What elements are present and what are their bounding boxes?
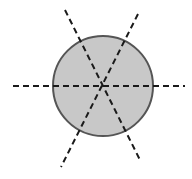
symmetry-diagram — [0, 0, 192, 179]
